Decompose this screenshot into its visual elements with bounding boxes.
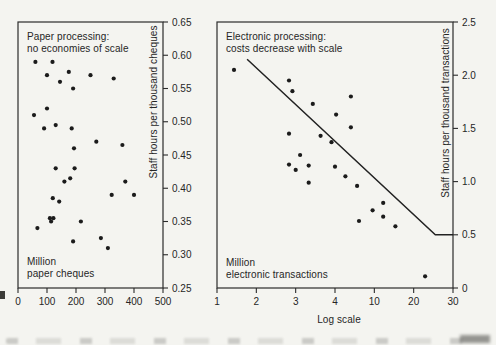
data-point	[381, 215, 385, 219]
data-point	[307, 181, 311, 185]
y-tick-label: 0.60	[172, 50, 192, 61]
y-tick-label: 0.55	[172, 83, 192, 94]
data-point	[94, 140, 98, 144]
data-point	[319, 134, 323, 138]
left-y-axis-label: Staff hours per thousand cheques	[148, 25, 160, 178]
data-point	[329, 140, 333, 144]
y-tick-label: 1.5	[462, 123, 476, 134]
data-point	[232, 68, 236, 72]
y-tick-label: 2.0	[462, 70, 476, 81]
y-tick-label: 1.0	[462, 176, 476, 187]
right-chart-title: Electronic processing: costs decrease wi…	[226, 31, 342, 54]
data-point	[54, 123, 58, 127]
data-point	[88, 73, 92, 77]
data-point	[33, 60, 37, 64]
data-point	[68, 176, 72, 180]
data-point	[42, 126, 46, 130]
data-point	[45, 73, 49, 77]
data-point	[99, 236, 103, 240]
data-point	[371, 208, 375, 212]
data-point	[71, 86, 75, 90]
x-tick-label: 300	[97, 296, 114, 307]
x-tick-label: 200	[68, 296, 85, 307]
data-point	[123, 180, 127, 184]
data-point	[343, 174, 347, 178]
x-tick-label: 4	[332, 296, 338, 307]
data-point	[334, 113, 338, 117]
data-point	[54, 166, 58, 170]
trend-line	[247, 59, 453, 235]
left-chart-corner-label: Million paper cheques	[27, 256, 94, 279]
y-tick-label: 0.5	[462, 229, 476, 240]
data-point	[290, 89, 294, 93]
data-point	[71, 239, 75, 243]
y-tick-label: 0.50	[172, 116, 192, 127]
data-point	[311, 102, 315, 106]
x-tick-label: 30	[447, 296, 459, 307]
y-tick-label: 0.40	[172, 183, 192, 194]
x-tick-label: 1	[214, 296, 220, 307]
data-point	[73, 166, 77, 170]
y-tick-label: 0.30	[172, 249, 192, 260]
data-point	[110, 193, 114, 197]
data-point	[393, 224, 397, 228]
y-tick-label: 2.5	[462, 17, 476, 28]
data-point	[49, 219, 53, 223]
data-point	[355, 184, 359, 188]
data-point	[349, 94, 353, 98]
x-tick-label: 10	[369, 296, 381, 307]
data-point	[58, 80, 62, 84]
y-tick-label: 0.65	[172, 17, 192, 28]
data-point	[45, 106, 49, 110]
cropped-caption-remnant	[6, 338, 476, 344]
left-chart-title: Paper processing: no economies of scale	[27, 31, 129, 54]
plot-frame	[217, 22, 453, 288]
x-tick-label: 0	[15, 296, 21, 307]
x-tick-label: 400	[126, 296, 143, 307]
data-point	[32, 113, 36, 117]
data-point	[106, 246, 110, 250]
plot-frame	[18, 22, 163, 288]
data-point	[72, 146, 76, 150]
data-point	[298, 153, 302, 157]
right-chart-corner-label: Million electronic transactions	[226, 257, 328, 280]
data-point	[287, 132, 291, 136]
data-point	[287, 78, 291, 82]
scan-artifact	[0, 291, 5, 299]
y-tick-label: 0.35	[172, 216, 192, 227]
data-point	[423, 274, 427, 278]
data-point	[349, 125, 353, 129]
data-point	[357, 219, 361, 223]
x-tick-label: 3	[293, 296, 299, 307]
x-tick-label: 20	[408, 296, 420, 307]
data-point	[35, 226, 39, 230]
data-point	[79, 219, 83, 223]
data-point	[287, 163, 291, 167]
data-point	[51, 196, 55, 200]
data-point	[112, 76, 116, 80]
scatter-figure: 0.650.600.550.500.450.400.350.300.250100…	[0, 0, 496, 345]
data-point	[70, 126, 74, 130]
y-tick-label: 0	[462, 283, 468, 294]
data-point	[132, 193, 136, 197]
y-tick-label: 0.25	[172, 283, 192, 294]
log-scale-caption: Log scale	[304, 314, 374, 326]
data-point	[381, 201, 385, 205]
data-point	[307, 164, 311, 168]
right-y-axis-label: Staff hours per thousand transactions	[440, 28, 452, 198]
data-point	[62, 180, 66, 184]
x-tick-label: 2	[254, 296, 260, 307]
y-tick-label: 0.45	[172, 150, 192, 161]
data-point	[294, 168, 298, 172]
data-point	[120, 143, 124, 147]
data-point	[333, 165, 337, 169]
x-tick-label: 100	[39, 296, 56, 307]
data-point	[57, 200, 61, 204]
x-tick-label: 500	[155, 296, 172, 307]
data-point	[50, 60, 54, 64]
data-point	[67, 70, 71, 74]
